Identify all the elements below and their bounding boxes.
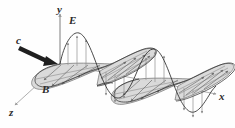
x-axis-label: x <box>219 91 225 102</box>
propagation-arrow <box>18 46 58 66</box>
y-axis-label: y <box>57 4 62 15</box>
e-field-label: E <box>69 15 76 26</box>
z-axis-label: z <box>9 107 13 118</box>
b-field-label: B <box>42 84 49 95</box>
em-wave-canvas <box>0 0 235 128</box>
em-wave-figure: y E c B z x <box>0 0 235 128</box>
speed-label: c <box>16 35 21 46</box>
